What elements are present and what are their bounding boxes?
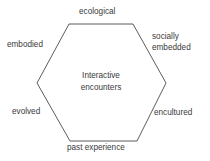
label-embedded: embedded bbox=[152, 43, 191, 53]
label-ecological: ecological bbox=[79, 7, 115, 17]
center-line-2: encounters bbox=[66, 83, 136, 93]
label-evolved: evolved bbox=[12, 107, 40, 117]
label-past-experience: past experience bbox=[67, 143, 125, 153]
label-socially: socially bbox=[152, 32, 179, 42]
label-encultured: encultured bbox=[154, 108, 192, 118]
label-embodied: embodied bbox=[7, 40, 43, 50]
hexagon-diagram: ecological embodied socially embedded In… bbox=[0, 0, 210, 161]
center-line-1: Interactive bbox=[66, 71, 136, 81]
